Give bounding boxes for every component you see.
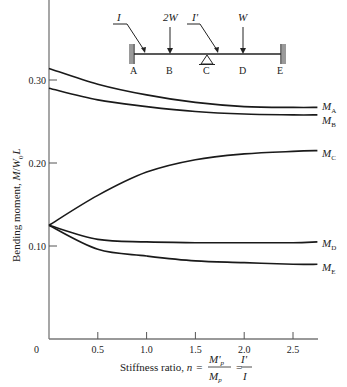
x-axis-label-num2: I' — [240, 353, 248, 365]
y-ticks: 0.100.200.30 — [29, 75, 58, 252]
load-label-b: 2W — [163, 11, 179, 23]
x-ticks: 0.51.01.52.02.5 — [92, 332, 300, 355]
y-tick-label: 0.10 — [29, 241, 47, 252]
x-axis-label-den2: I — [242, 370, 248, 382]
point-label-b: B — [166, 65, 173, 76]
leader-arrowhead-i — [141, 47, 146, 53]
x-tick-label: 0.5 — [92, 344, 105, 355]
x-tick-label: 2.5 — [287, 344, 300, 355]
load-arrowhead-b — [167, 48, 173, 54]
leader-i-icon — [113, 24, 144, 50]
fixed-support-e-icon — [282, 44, 286, 64]
point-label-d: D — [239, 65, 246, 76]
point-label-c: C — [203, 65, 210, 76]
load-arrowhead-d — [240, 48, 246, 54]
x-origin-label: 0 — [34, 344, 39, 355]
chart: 0.51.01.52.02.5 0.100.200.30 MAMBMCMDME … — [0, 0, 347, 387]
y-axis-label: Bending moment, M/W0L — [10, 148, 25, 262]
x-tick-label: 1.5 — [189, 344, 202, 355]
beam-diagram: I I' 2W W A B C D E — [113, 11, 286, 76]
x-axis-label-num1: M'p — [208, 353, 225, 367]
y-tick-label: 0.20 — [29, 158, 47, 169]
curve-m-c — [49, 151, 317, 226]
member-label-i: I — [116, 11, 122, 23]
leader-i-prime-icon — [187, 24, 217, 50]
member-label-i-prime: I' — [191, 11, 199, 23]
curve-labels: MAMBMCMDME — [321, 100, 336, 276]
leader-arrowhead-i-prime — [214, 47, 219, 53]
load-label-d: W — [238, 11, 248, 23]
x-tick-label: 1.0 — [140, 344, 153, 355]
curve-label-m-e: ME — [321, 261, 335, 276]
curve-label-m-b: MB — [321, 114, 336, 129]
curve-label-m-d: MD — [321, 237, 336, 252]
curve-m-e — [49, 225, 317, 264]
x-axis-label-prefix: Stiffness ratio, n= — [120, 361, 202, 373]
curve-label-m-c: MC — [321, 147, 336, 162]
fixed-support-a-icon — [129, 44, 133, 64]
x-axis-label-den1: Mp — [208, 370, 222, 384]
curves — [49, 68, 317, 264]
y-tick-label: 0.30 — [29, 75, 47, 86]
pin-support-c-icon — [201, 55, 213, 64]
point-label-e: E — [277, 65, 283, 76]
point-label-a: A — [130, 65, 138, 76]
curve-m-d — [49, 225, 317, 242]
x-axis-label: Stiffness ratio, n= M'p Mp = I' I — [120, 353, 252, 384]
